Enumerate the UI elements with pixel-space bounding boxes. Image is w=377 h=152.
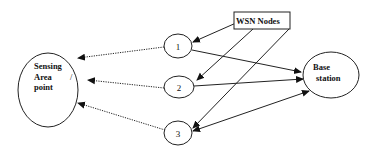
wsn-diagram: Sensing Area/ point 1 2 3 WSN Nodes Base… <box>0 0 377 152</box>
edge-wsn-node3 <box>193 29 289 128</box>
node-1-label: 1 <box>176 42 181 52</box>
edge-node2-sensing <box>88 80 164 88</box>
wsn-nodes-box: WSN Nodes <box>234 12 290 29</box>
wsn-node-1: 1 <box>164 34 192 58</box>
sensing-area-node: Sensing Area/ point <box>18 53 78 127</box>
edge-node3-base <box>193 91 309 131</box>
base-station-node: Base station <box>303 52 359 98</box>
wsn-nodes-label: WSN Nodes <box>236 16 280 26</box>
edge-wsn-node1 <box>193 23 236 42</box>
sensing-area-label-1: Sensing <box>34 61 63 71</box>
node-3-label: 3 <box>176 129 181 139</box>
edge-node3-sensing <box>78 103 165 130</box>
base-station-label-2: station <box>316 73 341 83</box>
edge-node1-sensing <box>78 47 164 58</box>
node-2-label: 2 <box>177 83 182 93</box>
base-station-label-1: Base <box>313 62 330 72</box>
wsn-node-3: 3 <box>164 121 192 145</box>
edge-node2-base <box>194 79 303 86</box>
edge-node1-base <box>192 50 301 72</box>
wsn-node-2: 2 <box>164 76 194 98</box>
sensing-area-label-3: point <box>34 82 53 92</box>
